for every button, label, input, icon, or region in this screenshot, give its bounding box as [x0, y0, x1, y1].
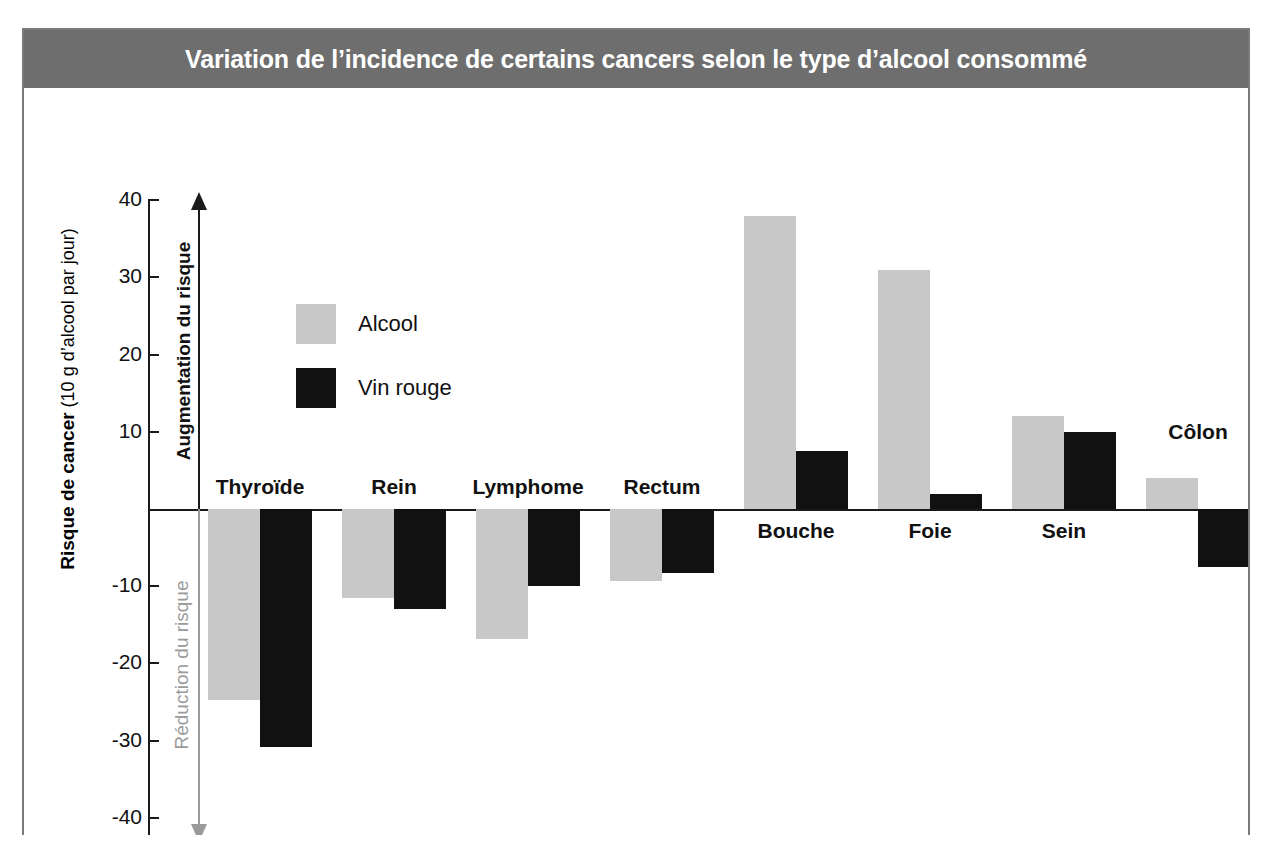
y-axis-tick-label: 10 — [86, 420, 142, 441]
y-axis-tick — [148, 431, 159, 433]
y-axis-label: Risque de cancer (10 g d’alcool par jour… — [57, 189, 79, 609]
y-axis-tick — [148, 276, 159, 278]
arrow-down-icon — [191, 824, 207, 835]
y-axis-tick — [148, 817, 159, 819]
bar-vin-rouge-rein[interactable] — [394, 509, 446, 609]
bar-vin-rouge-côlon[interactable] — [1198, 509, 1248, 567]
category-label-rectum: Rectum — [590, 475, 734, 499]
bar-alcool-thyroïde[interactable] — [208, 509, 260, 700]
chart-legend: AlcoolVin rouge — [296, 304, 452, 432]
y-axis-tick — [148, 740, 159, 742]
y-axis-tick-label: 30 — [86, 265, 142, 286]
chart-title-band: Variation de l’incidence de certains can… — [24, 30, 1248, 88]
bar-alcool-sein[interactable] — [1012, 416, 1064, 509]
y-axis-label-strong: Risque de cancer — [57, 412, 78, 569]
increase-arrow-label: Augmentation du risque — [173, 231, 195, 471]
bar-alcool-bouche[interactable] — [744, 216, 796, 509]
y-axis-tick — [148, 199, 159, 201]
arrow-up-icon — [191, 192, 207, 210]
bar-alcool-foie[interactable] — [878, 270, 930, 509]
bar-vin-rouge-bouche[interactable] — [796, 451, 848, 509]
y-axis-label-light: (10 g d’alcool par jour) — [58, 228, 78, 412]
category-label-bouche: Bouche — [724, 519, 868, 543]
category-label-rein: Rein — [322, 475, 466, 499]
category-label-côlon: Côlon — [1126, 420, 1248, 444]
increase-arrow-shaft — [198, 206, 200, 511]
y-axis-tick-label: 40 — [86, 188, 142, 209]
bar-vin-rouge-lymphome[interactable] — [528, 509, 580, 586]
y-axis-tick-label: -20 — [86, 651, 142, 672]
bar-alcool-rein[interactable] — [342, 509, 394, 598]
bar-vin-rouge-rectum[interactable] — [662, 509, 714, 573]
legend-item-label: Vin rouge — [358, 377, 452, 399]
decrease-arrow-shaft — [198, 509, 200, 827]
legend-swatch-alcool — [296, 304, 336, 344]
legend-swatch-vin-rouge — [296, 368, 336, 408]
y-axis-tick — [148, 354, 159, 356]
y-axis-tick-label: -10 — [86, 574, 142, 595]
bar-alcool-côlon[interactable] — [1146, 478, 1198, 509]
legend-item[interactable]: Vin rouge — [296, 368, 452, 408]
category-label-sein: Sein — [992, 519, 1136, 543]
y-axis-tick-label: 20 — [86, 343, 142, 364]
page-title: Variation de l’incidence de certains can… — [185, 45, 1087, 74]
bar-alcool-rectum[interactable] — [610, 509, 662, 581]
legend-item-label: Alcool — [358, 313, 418, 335]
category-label-foie: Foie — [858, 519, 1002, 543]
category-label-thyroïde: Thyroïde — [188, 475, 332, 499]
bar-vin-rouge-foie[interactable] — [930, 494, 982, 509]
chart-plot-area: Risque de cancer (10 g d’alcool par jour… — [24, 88, 1248, 835]
y-axis-tick — [148, 585, 159, 587]
category-label-lymphome: Lymphome — [456, 475, 600, 499]
y-axis-tick-label: -30 — [86, 729, 142, 750]
y-axis-tick — [148, 662, 159, 664]
y-axis-tick-label: -40 — [86, 806, 142, 827]
bar-vin-rouge-sein[interactable] — [1064, 432, 1116, 509]
decrease-arrow-label: Réduction du risque — [171, 545, 193, 785]
bar-vin-rouge-thyroïde[interactable] — [260, 509, 312, 747]
bar-alcool-lymphome[interactable] — [476, 509, 528, 639]
legend-item[interactable]: Alcool — [296, 304, 452, 344]
figure-frame: Variation de l’incidence de certains can… — [22, 28, 1250, 835]
